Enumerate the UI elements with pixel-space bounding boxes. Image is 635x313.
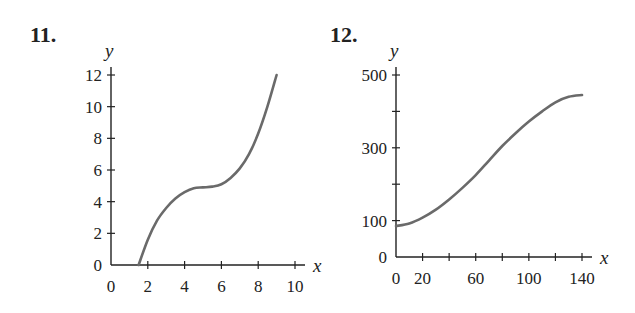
x-tick-label: 10 bbox=[287, 277, 304, 296]
y-tick-label: 12 bbox=[85, 66, 102, 85]
x-tick-label: 100 bbox=[516, 269, 542, 288]
y-tick-label: 8 bbox=[94, 129, 103, 148]
y-tick-label: 2 bbox=[94, 224, 103, 243]
data-curve bbox=[139, 75, 277, 265]
x-tick-label: 0 bbox=[392, 269, 401, 288]
y-tick-label: 500 bbox=[362, 66, 388, 85]
x-tick-label: 20 bbox=[414, 269, 431, 288]
x-tick-label: 4 bbox=[180, 277, 189, 296]
x-axis-label: x bbox=[312, 255, 322, 276]
x-tick-label: 0 bbox=[107, 277, 116, 296]
y-tick-label: 4 bbox=[94, 193, 103, 212]
x-tick-label: 2 bbox=[144, 277, 153, 296]
x-tick-label: 6 bbox=[217, 277, 226, 296]
y-tick-label: 0 bbox=[379, 248, 388, 267]
x-tick-label: 60 bbox=[467, 269, 484, 288]
chart-11: 0246810024681012xy bbox=[85, 40, 322, 296]
x-tick-label: 140 bbox=[569, 269, 595, 288]
y-tick-label: 0 bbox=[94, 256, 103, 275]
chart-12: 020601001400100300500xy bbox=[362, 40, 610, 288]
x-tick-label: 8 bbox=[254, 277, 263, 296]
x-axis-label: x bbox=[599, 247, 609, 268]
y-tick-label: 300 bbox=[362, 139, 388, 158]
y-axis-label: y bbox=[103, 40, 114, 61]
y-tick-label: 10 bbox=[85, 98, 102, 117]
y-axis-label: y bbox=[388, 40, 399, 61]
y-tick-label: 6 bbox=[94, 161, 103, 180]
data-curve bbox=[396, 95, 582, 226]
y-tick-label: 100 bbox=[362, 212, 388, 231]
charts-canvas: 0246810024681012xy 020601001400100300500… bbox=[0, 0, 635, 313]
